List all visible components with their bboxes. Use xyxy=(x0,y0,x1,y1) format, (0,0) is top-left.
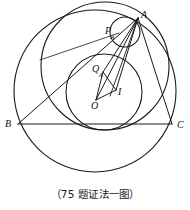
point-label-P-A: PA xyxy=(105,26,115,39)
point-label-P-sub: A xyxy=(111,33,115,40)
incircle xyxy=(66,54,142,130)
point-label-Q-A: QA xyxy=(92,64,103,77)
geometry-drawing xyxy=(0,0,190,185)
point-label-Q-sub: A xyxy=(99,71,103,78)
figure-caption: （75 题证法一图） xyxy=(0,186,190,201)
geometry-figure: A B C O I PA QA （75 题证法一图） xyxy=(0,0,190,210)
point-label-O: O xyxy=(91,101,98,111)
point-label-A: A xyxy=(141,10,147,20)
point-label-B: B xyxy=(5,119,11,129)
side-AB xyxy=(18,18,138,124)
point-label-C: C xyxy=(177,120,184,130)
outer-auxiliary-circle xyxy=(14,10,176,172)
side-AC xyxy=(138,18,172,124)
circumcircle xyxy=(41,2,169,130)
point-label-I: I xyxy=(118,87,121,97)
